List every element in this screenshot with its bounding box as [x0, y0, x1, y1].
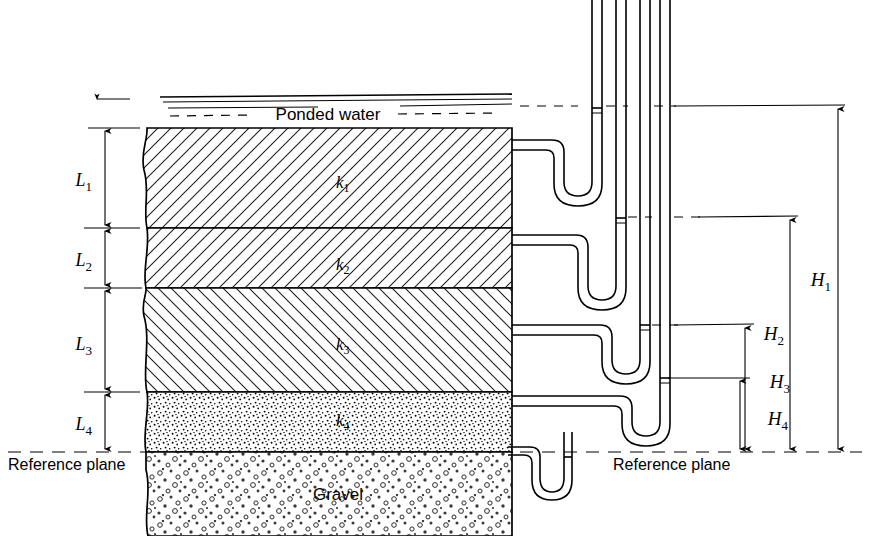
dimension-L4: L4: [74, 395, 105, 449]
dimension-H4-label: H4: [767, 408, 789, 433]
soil-layer-2: k2: [145, 228, 512, 288]
ponded-water-label: Ponded water: [276, 105, 381, 124]
dimension-L4-label: L4: [74, 414, 92, 438]
soil-column: k1 k2 k3 k4 Gravel: [143, 128, 512, 536]
water-surface-line-second: [163, 99, 512, 102]
gravel-label: Gravel: [313, 485, 363, 504]
water-surface-line-top: [160, 94, 512, 97]
dimension-L1-label: L1: [74, 170, 92, 194]
thickness-dimension-chain: L1 L2 L3 L4: [74, 128, 142, 449]
soil-layer-3: k3: [143, 288, 512, 392]
piezometer-4-tube-inner: [512, 0, 670, 446]
figure-root: k1 k2 k3 k4 Gravel: [0, 0, 870, 536]
soil-layer-1-body: [143, 128, 512, 228]
soil-layer-2-body: [145, 228, 512, 288]
gravel-layer: Gravel: [146, 452, 512, 536]
soil-layer-4: k4: [145, 392, 512, 452]
soil-layer-3-body: [143, 288, 512, 392]
piezometer-4-tube-outer: [512, 0, 660, 436]
piezometer-2-tube-inner: [512, 0, 626, 310]
dimension-L3-label: L3: [74, 334, 92, 358]
piezometer-3: [512, 0, 650, 384]
layered-soil-diagram: k1 k2 k3 k4 Gravel: [0, 0, 870, 536]
soil-layer-4-body: [145, 392, 512, 452]
dimension-L2: L2: [74, 231, 105, 285]
head-3-leader-line: [674, 324, 754, 325]
dimension-H1-label: H1: [810, 269, 831, 294]
gravel-outlet-tube: [508, 432, 572, 500]
ponded-water: Ponded water: [97, 94, 512, 124]
piezometer-1-tube-inner: [512, 0, 602, 206]
piezometer-1-tube-outer: [512, 0, 592, 196]
head-level-leaders: [520, 105, 845, 378]
piezometer-4: [512, 0, 670, 446]
head-dimension-arrows: H1 H2 H3 H4: [740, 109, 838, 449]
water-ripple-left: [170, 115, 250, 116]
dimension-H2-label: H2: [763, 323, 784, 348]
piezometer-tubes: [508, 0, 670, 500]
piezometer-2: [512, 0, 626, 310]
head-1-leader-line: [674, 105, 845, 106]
gravel-outlet-tube-outer: [508, 432, 564, 492]
reference-plane-label-left: Reference plane: [8, 456, 126, 473]
dimension-H1: H1: [810, 109, 838, 449]
reference-plane-label-right: Reference plane: [613, 456, 731, 473]
piezometer-3-tube-inner: [512, 0, 650, 384]
dimension-L2-label: L2: [74, 250, 92, 274]
dimension-H3-label: H3: [769, 371, 790, 396]
dimension-L1: L1: [74, 131, 105, 225]
piezometer-1: [512, 0, 602, 206]
water-ripple-right: [398, 113, 500, 114]
piezometer-3-tube-outer: [512, 0, 640, 374]
head-2-leader-line: [698, 216, 798, 217]
water-surface-line-third-right: [400, 104, 512, 106]
soil-layer-1: k1: [143, 128, 512, 228]
dimension-L3: L3: [74, 291, 105, 389]
